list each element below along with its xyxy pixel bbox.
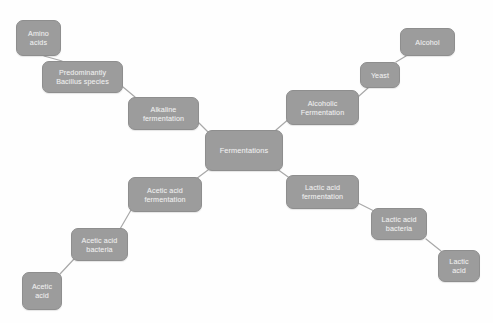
node-fermentations[interactable]: Fermentations — [205, 130, 283, 171]
node-label-alkaline-fermentation: Alkaline fermentation — [132, 105, 195, 123]
node-lactic-acid-fermentation[interactable]: Lactic acid fermentation — [286, 175, 359, 209]
node-acetic-acid-bacteria[interactable]: Acetic acid bacteria — [71, 228, 128, 261]
connector-acetic-acid-fermentation-to-acetic-acid-bacteria — [120, 210, 131, 229]
node-alkaline-fermentation[interactable]: Alkaline fermentation — [128, 97, 199, 130]
node-label-acetic-acid-fermentation: Acetic acid fermentation — [132, 186, 198, 204]
node-label-lactic-acid-bacteria: Lactic acid bacteria — [375, 215, 423, 233]
mindmap-canvas: Amino acidsPredominantly Bacillus specie… — [0, 0, 493, 323]
node-label-lactic-acid-fermentation: Lactic acid fermentation — [290, 183, 355, 201]
node-lactic-acid[interactable]: Lactic acid — [438, 250, 480, 282]
node-label-acetic-acid: Acetic acid — [26, 282, 58, 300]
node-label-yeast: Yeast — [364, 71, 396, 80]
connector-alcoholic-fermentation-to-yeast — [359, 88, 368, 96]
node-label-fermentations: Fermentations — [209, 146, 279, 155]
node-yeast[interactable]: Yeast — [360, 62, 400, 88]
node-label-bacillus-species: Predominantly Bacillus species — [46, 68, 119, 86]
node-amino-acids[interactable]: Amino acids — [16, 20, 61, 56]
node-label-amino-acids: Amino acids — [20, 29, 57, 47]
connector-bacillus-species-to-alkaline-fermentation — [123, 87, 135, 97]
node-label-acetic-acid-bacteria: Acetic acid bacteria — [75, 236, 124, 254]
node-alcohol[interactable]: Alcohol — [400, 28, 455, 56]
connector-yeast-to-alcohol — [396, 56, 406, 62]
node-label-alcohol: Alcohol — [404, 38, 451, 47]
node-lactic-acid-bacteria[interactable]: Lactic acid bacteria — [371, 208, 427, 240]
connector-acetic-acid-bacteria-to-acetic-acid — [60, 259, 74, 274]
node-alcoholic-fermentation[interactable]: Alcoholic Fermentation — [286, 90, 359, 125]
node-acetic-acid[interactable]: Acetic acid — [22, 272, 62, 310]
node-acetic-acid-fermentation[interactable]: Acetic acid fermentation — [128, 177, 202, 212]
connector-lactic-acid-bacteria-to-lactic-acid — [426, 239, 441, 251]
node-label-lactic-acid: Lactic acid — [442, 257, 476, 275]
node-bacillus-species[interactable]: Predominantly Bacillus species — [42, 61, 123, 93]
node-label-alcoholic-fermentation: Alcoholic Fermentation — [290, 99, 355, 117]
